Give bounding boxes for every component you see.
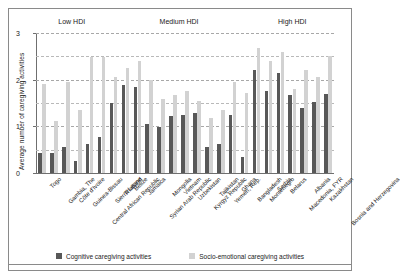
bar-cognitive — [86, 144, 90, 173]
bar-group — [167, 33, 179, 173]
bar-group — [119, 33, 131, 173]
bar-group — [108, 33, 120, 173]
bar-socio-emotional — [185, 91, 189, 173]
bar-socio-emotional — [209, 118, 213, 173]
bar-cognitive — [205, 147, 209, 173]
bar-group — [131, 33, 143, 173]
bar-socio-emotional — [316, 77, 320, 173]
bar-cognitive — [193, 113, 197, 173]
bar-group — [143, 33, 155, 173]
bar-group — [227, 33, 239, 173]
bar-socio-emotional — [54, 121, 58, 173]
bar-group — [322, 33, 334, 173]
bar-cognitive — [253, 70, 257, 173]
chart-legend: Cognitive caregiving activitiesSocio-emo… — [8, 249, 352, 263]
bar-socio-emotional — [149, 80, 153, 173]
legend-item: Socio-emotional caregiving activities — [189, 253, 304, 260]
x-axis-line — [36, 173, 334, 174]
bar-cognitive — [169, 116, 173, 173]
bar-socio-emotional — [245, 93, 249, 173]
x-tick-label: Bosnia and Herzegovina — [350, 176, 400, 226]
bar-socio-emotional — [197, 101, 201, 173]
bar-group — [251, 33, 263, 173]
bar-socio-emotional — [78, 110, 82, 173]
bar-cognitive — [98, 137, 102, 173]
bar-cognitive — [229, 115, 233, 173]
bar-socio-emotional — [293, 89, 297, 173]
y-tick-label: 2 — [0, 76, 20, 83]
bar-cognitive — [277, 73, 281, 173]
bar-socio-emotional — [66, 82, 70, 173]
bar-cognitive — [312, 102, 316, 173]
legend-swatch-cog — [56, 253, 62, 259]
plot-area — [36, 33, 334, 173]
bar-cognitive — [110, 103, 114, 173]
bar-group — [48, 33, 60, 173]
bar-group — [203, 33, 215, 173]
bar-group — [298, 33, 310, 173]
bar-group — [215, 33, 227, 173]
bar-socio-emotional — [42, 84, 46, 173]
y-axis-label: Average number of caregiving activities — [18, 53, 25, 170]
bar-socio-emotional — [269, 61, 273, 173]
legend-item: Cognitive caregiving activities — [56, 253, 151, 260]
legend-label: Cognitive caregiving activities — [66, 253, 151, 260]
bar-cognitive — [324, 94, 328, 173]
y-tick-label: 3 — [0, 30, 20, 37]
bar-group — [286, 33, 298, 173]
bar-socio-emotional — [173, 95, 177, 173]
bar-cognitive — [265, 91, 269, 173]
legend-label: Socio-emotional caregiving activities — [199, 253, 304, 260]
plot-inner — [36, 33, 334, 173]
bar-socio-emotional — [221, 110, 225, 173]
legend-swatch-soc — [189, 253, 195, 259]
bar-group — [96, 33, 108, 173]
bar-cognitive — [62, 147, 66, 173]
bar-cognitive — [38, 153, 42, 173]
legend-divider — [8, 264, 352, 265]
bar-cognitive — [145, 124, 149, 173]
bar-socio-emotional — [304, 70, 308, 173]
bar-cognitive — [181, 115, 185, 173]
bar-group — [60, 33, 72, 173]
bar-group — [179, 33, 191, 173]
group-header-high-hdi: High HDI — [252, 18, 332, 25]
bar-socio-emotional — [233, 82, 237, 173]
group-header-medium-hdi: Medium HDI — [139, 18, 219, 25]
bar-socio-emotional — [90, 57, 94, 173]
bar-group — [274, 33, 286, 173]
bar-socio-emotional — [257, 48, 261, 173]
group-header-low-hdi: Low HDI — [32, 18, 112, 25]
bar-socio-emotional — [138, 61, 142, 173]
bar-socio-emotional — [281, 52, 285, 173]
bar-cognitive — [50, 153, 54, 173]
bar-cognitive — [217, 144, 221, 173]
bar-cognitive — [288, 95, 292, 173]
bar-socio-emotional — [102, 57, 106, 173]
bar-cognitive — [74, 161, 78, 173]
bar-socio-emotional — [126, 68, 130, 173]
bar-group — [310, 33, 322, 173]
y-tick-label: 1 — [0, 123, 20, 130]
bar-socio-emotional — [114, 77, 118, 173]
bar-group — [239, 33, 251, 173]
bar-group — [36, 33, 48, 173]
bar-cognitive — [241, 157, 245, 173]
bar-group — [155, 33, 167, 173]
bar-cognitive — [300, 108, 304, 173]
bar-cognitive — [122, 85, 126, 173]
y-tick-label: 0 — [0, 170, 20, 177]
bar-cognitive — [157, 127, 161, 173]
bar-group — [262, 33, 274, 173]
bar-socio-emotional — [161, 99, 165, 173]
bar-group — [84, 33, 96, 173]
bar-group — [191, 33, 203, 173]
bar-socio-emotional — [328, 56, 332, 173]
bar-group — [72, 33, 84, 173]
bar-cognitive — [134, 87, 138, 173]
